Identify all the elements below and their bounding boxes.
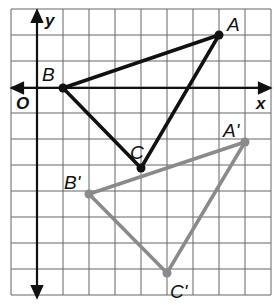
label-b-prime: B'	[64, 172, 82, 193]
label-a-prime: A'	[222, 120, 241, 141]
label-c: C	[130, 142, 144, 163]
label-b: B	[42, 64, 55, 85]
x-axis-arrow-left	[12, 83, 23, 93]
point-b-prime	[85, 190, 94, 199]
y-axis-arrow-up	[32, 11, 42, 22]
x-axis-label: x	[255, 94, 267, 113]
x-axis-arrow-right	[259, 83, 270, 93]
origin-label: O	[16, 94, 29, 113]
coordinate-plane: y x O A B C A' B' C'	[0, 0, 274, 305]
point-b	[59, 84, 68, 93]
point-a-prime	[241, 138, 250, 147]
y-axis-label: y	[44, 11, 56, 30]
point-c-prime	[163, 269, 172, 278]
label-c-prime: C'	[170, 281, 189, 302]
point-a	[215, 31, 224, 40]
label-a: A	[226, 14, 240, 35]
point-c	[137, 164, 146, 173]
